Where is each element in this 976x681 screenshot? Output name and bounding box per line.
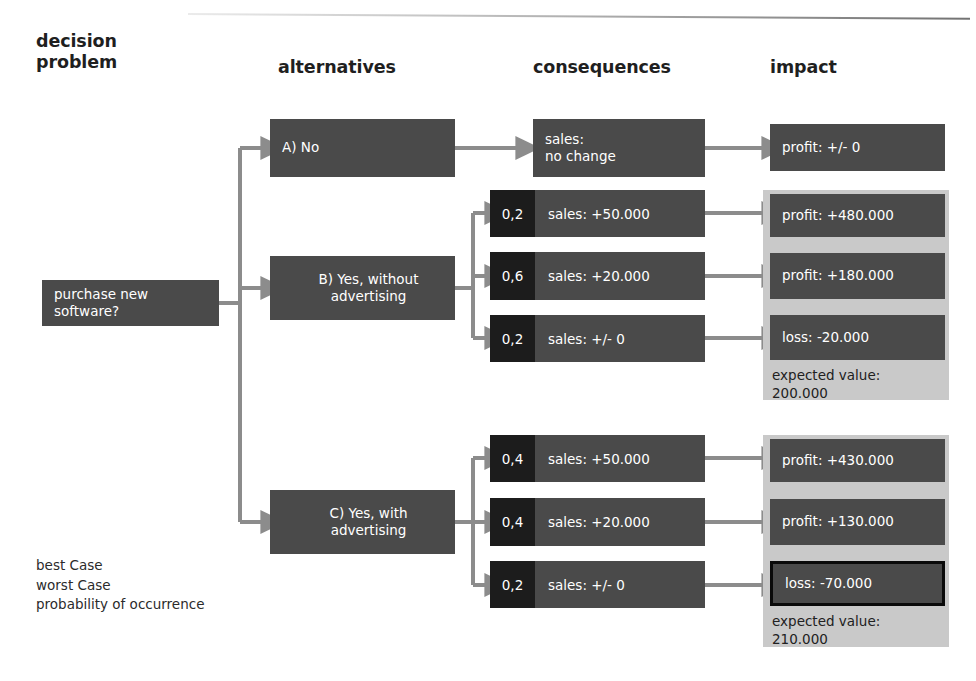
- legend: best Case worst Case probability of occu…: [36, 556, 296, 615]
- impact-node-c-1[interactable]: profit: +430.000: [770, 439, 945, 482]
- consequence-label-b-3: sales: +/- 0: [535, 315, 705, 362]
- legend-item-best-case: best Case: [36, 556, 296, 576]
- consequence-label-b-1: sales: +50.000: [535, 190, 705, 237]
- alternative-node-b[interactable]: B) Yes, without advertising: [270, 256, 455, 320]
- probability-chip-c-2: 0,4: [490, 498, 535, 546]
- consequence-row-b-1[interactable]: 0,2 sales: +50.000: [490, 190, 705, 237]
- consequence-row-b-3[interactable]: 0,2 sales: +/- 0: [490, 315, 705, 362]
- scan-artifact-line: [188, 13, 970, 20]
- consequence-row-b-2[interactable]: 0,6 sales: +20.000: [490, 252, 705, 300]
- impact-node-c-2[interactable]: profit: +130.000: [770, 499, 945, 545]
- probability-chip-b-3: 0,2: [490, 315, 535, 362]
- alternative-node-c[interactable]: C) Yes, with advertising: [270, 490, 455, 554]
- consequence-label-c-3: sales: +/- 0: [535, 561, 705, 608]
- expected-value-c: expected value: 210.000: [772, 613, 947, 649]
- column-heading-decision-problem: decision problem: [36, 31, 117, 74]
- column-heading-consequences: consequences: [533, 57, 671, 78]
- impact-node-b-2[interactable]: profit: +180.000: [770, 253, 945, 299]
- legend-item-probability: probability of occurrence: [36, 595, 296, 615]
- consequence-label-c-1: sales: +50.000: [535, 435, 705, 482]
- consequence-row-c-2[interactable]: 0,4 sales: +20.000: [490, 498, 705, 546]
- consequence-row-c-3[interactable]: 0,2 sales: +/- 0: [490, 561, 705, 608]
- column-heading-impact: impact: [770, 57, 837, 78]
- probability-chip-c-1: 0,4: [490, 435, 535, 482]
- legend-item-worst-case: worst Case: [36, 576, 296, 596]
- probability-chip-b-1: 0,2: [490, 190, 535, 237]
- impact-node-c-3-worst-case[interactable]: loss: -70.000: [770, 561, 945, 606]
- consequence-node-a-1[interactable]: sales: no change: [533, 119, 705, 177]
- consequence-label-c-2: sales: +20.000: [535, 498, 705, 546]
- consequence-label-b-2: sales: +20.000: [535, 252, 705, 300]
- impact-node-b-1[interactable]: profit: +480.000: [770, 194, 945, 237]
- diagram-canvas: decision problem alternatives consequenc…: [0, 0, 976, 681]
- impact-node-b-3[interactable]: loss: -20.000: [770, 315, 945, 360]
- expected-value-b: expected value: 200.000: [772, 367, 947, 403]
- root-node-decision[interactable]: purchase new software?: [42, 280, 219, 326]
- column-heading-alternatives: alternatives: [278, 57, 396, 78]
- impact-node-a-1[interactable]: profit: +/- 0: [770, 124, 945, 171]
- consequence-row-c-1[interactable]: 0,4 sales: +50.000: [490, 435, 705, 482]
- probability-chip-c-3: 0,2: [490, 561, 535, 608]
- probability-chip-b-2: 0,6: [490, 252, 535, 300]
- alternative-node-a[interactable]: A) No: [270, 119, 455, 177]
